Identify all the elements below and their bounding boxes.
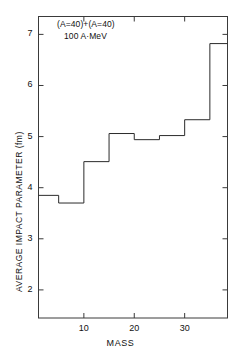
y-tick-label: 7 [17,28,33,38]
x-tick-label: 20 [124,323,144,333]
axes-frame-rect [39,17,228,319]
annotation-reaction-system: (A=40)+(A=40) [57,19,115,29]
y-tick-label: 6 [17,79,33,89]
x-axis-ticks [84,17,185,319]
x-tick-label: 30 [175,323,195,333]
y-axis-ticks [39,34,228,290]
annotation-beam-energy: 100 A·MeV [64,31,107,41]
chart-figure: 234567 102030 MASS AVERAGE IMPACT PARAME… [0,0,241,357]
step-line [39,44,228,203]
axes-frame [39,17,228,319]
x-axis-title: MASS [0,338,241,348]
y-axis-title: AVERAGE IMPACT PARAMETER (fm) [14,131,24,292]
x-tick-label: 10 [74,323,94,333]
data-series-group [39,44,228,203]
chart-plot-area [0,0,241,357]
